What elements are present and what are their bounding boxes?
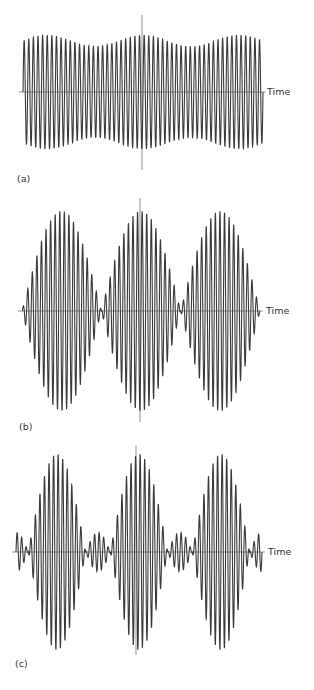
panel-c: Time (c) bbox=[0, 0, 314, 690]
panel-label-c: (c) bbox=[15, 658, 28, 669]
time-axis-label: Time bbox=[268, 546, 291, 557]
waveform-trace bbox=[16, 454, 262, 650]
waveform-plot-c bbox=[0, 0, 314, 690]
